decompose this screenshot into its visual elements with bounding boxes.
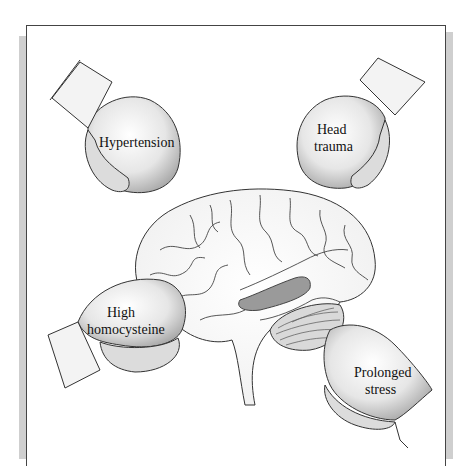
label-high-homocysteine-line1: High (107, 304, 135, 321)
label-head-trauma-line2: trauma (314, 138, 353, 155)
label-prolonged-stress-line1: Prolonged (354, 364, 412, 381)
label-hypertension: Hypertension (99, 134, 174, 151)
label-prolonged-stress-line2: stress (365, 381, 396, 398)
glove-hypertension-icon (50, 60, 180, 193)
label-head-trauma-line1: Head (317, 121, 347, 138)
label-high-homocysteine-line2: homocysteine (87, 321, 165, 338)
